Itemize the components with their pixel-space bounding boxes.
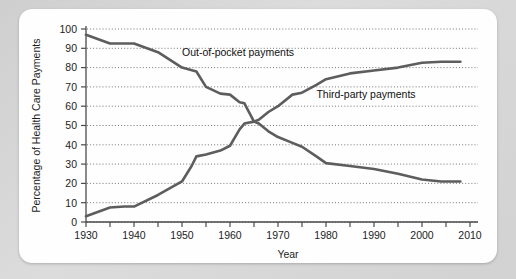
y-tick-label-30: 30 [65,158,77,170]
y-tick-label-10: 10 [65,197,77,209]
y-axis-title: Percentage of Health Care Payments [30,39,42,213]
y-tick-label-60: 60 [65,100,77,112]
y-tick-label-0: 0 [71,216,77,228]
x-tick-label-1930: 1930 [74,229,98,241]
x-tick-label-2010: 2010 [458,229,482,241]
x-axis-ticks [86,222,470,227]
screenshot-root: 0102030405060708090100 19301940195019601… [0,0,516,279]
y-tick-label-70: 70 [65,81,77,93]
line-chart: 0102030405060708090100 19301940195019601… [0,0,516,279]
x-axis-title: Year [277,248,299,260]
series-path-third-party [86,62,460,216]
y-tick-label-20: 20 [65,177,77,189]
x-tick-label-1990: 1990 [362,229,386,241]
series-label-out-of-pocket: Out-of-pocket payments [182,46,294,58]
y-tick-label-50: 50 [65,119,77,131]
x-tick-label-1970: 1970 [266,229,290,241]
x-tick-label-1940: 1940 [122,229,146,241]
y-tick-labels: 0102030405060708090100 [59,23,77,228]
x-tick-labels: 193019401950196019701980199020002010 [74,229,482,241]
y-axis-ticks [81,29,86,222]
y-tick-label-100: 100 [59,23,77,35]
series-label-third-party: Third-party payments [316,88,415,100]
x-tick-label-1980: 1980 [314,229,338,241]
x-tick-label-1960: 1960 [218,229,242,241]
y-tick-label-40: 40 [65,139,77,151]
y-tick-label-90: 90 [65,42,77,54]
x-tick-label-1950: 1950 [170,229,194,241]
chart-figure: 0102030405060708090100 19301940195019601… [0,0,516,279]
x-tick-label-2000: 2000 [410,229,434,241]
y-tick-label-80: 80 [65,61,77,73]
